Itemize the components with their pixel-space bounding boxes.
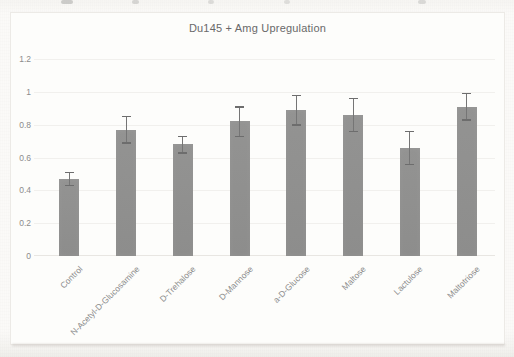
x-axis-line [34,255,495,256]
gridline [34,125,495,126]
error-bar-cap [235,136,244,138]
x-tick-label: D-Trehalose [158,264,198,304]
error-bar-cap [65,185,74,187]
error-bar [296,95,297,125]
chart-frame: Du145 + Amg Upregulation 00.20.40.60.811… [10,12,505,345]
error-bar-cap [462,119,471,121]
photo-artifact [132,0,139,4]
bar [59,179,79,256]
x-tick-label: D-Mannose [217,264,255,302]
error-bar [69,172,70,185]
photo-artifact [208,0,214,4]
bar [343,115,363,256]
error-bar-cap [178,136,187,138]
bar [457,107,477,256]
error-bar [126,116,127,142]
x-tick-label: Maltotriose [445,264,481,300]
y-tick-label: 1 [11,87,31,97]
photo-artifact [418,0,426,4]
error-bar-cap [122,116,131,118]
error-bar [239,107,240,137]
error-bar-cap [178,152,187,154]
error-bar-cap [405,164,414,166]
photo-artifact [61,0,73,4]
x-tick-label: Maltose [340,264,368,292]
gridline [34,190,495,191]
gridline [34,59,495,60]
error-bar [466,93,467,119]
y-tick-label: 0.4 [11,185,31,195]
error-bar [409,131,410,164]
y-tick-label: 0.8 [11,120,31,130]
x-tick-label: Control [58,264,84,290]
plot-area [34,59,495,256]
y-axis: 00.20.40.60.811.2 [11,59,31,256]
y-tick-label: 0 [11,251,31,261]
error-bar-cap [349,131,358,133]
bar [286,110,306,256]
error-bar [353,98,354,131]
x-tick-label: a-D-Glucose [271,264,312,305]
gridline [34,223,495,224]
photo-artifact [284,0,290,4]
bar [173,144,193,256]
gridline [34,92,495,93]
error-bar-cap [235,106,244,108]
photo-edge-shadow [12,344,505,346]
error-bar-cap [292,124,301,126]
y-tick-label: 1.2 [11,54,31,64]
y-tick-label: 0.2 [11,218,31,228]
bar [116,130,136,256]
error-bar-cap [405,131,414,133]
error-bar [182,136,183,152]
error-bar-cap [462,93,471,95]
x-axis: ControlN-Acetyl-D-GlucosamineD-Trehalose… [34,260,495,346]
chart-title: Du145 + Amg Upregulation [11,22,504,34]
error-bar-cap [122,142,131,144]
error-bar-cap [292,95,301,97]
x-tick-label: Lactulose [392,264,425,297]
error-bar-cap [65,172,74,174]
y-tick-label: 0.6 [11,153,31,163]
gridline [34,158,495,159]
bar [230,121,250,256]
error-bar-cap [349,98,358,100]
